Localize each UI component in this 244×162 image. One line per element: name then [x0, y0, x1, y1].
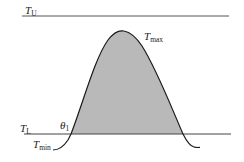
theta-label: θ1 [60, 119, 69, 133]
lower-threshold-label: TL [20, 122, 31, 136]
maximum-label: Tmax [144, 30, 163, 44]
minimum-label: Tmin [33, 138, 51, 152]
upper-threshold-label: TU [25, 4, 37, 18]
shaded-area [71, 31, 183, 134]
temperature-diagram: TU Tmax TL θ1 Tmin [0, 0, 244, 162]
